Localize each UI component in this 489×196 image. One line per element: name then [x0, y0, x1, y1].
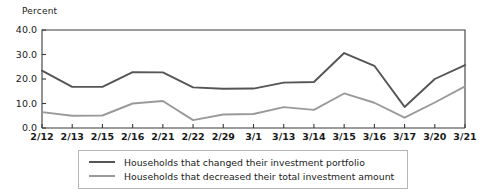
y-tick-label: 20.0: [16, 73, 37, 84]
plot-area: 0.010.020.030.040.02/122/132/152/162/212…: [0, 0, 489, 146]
x-tick-label: 3/13: [272, 131, 295, 142]
x-tick-label: 2/29: [212, 131, 235, 142]
x-tick-label: 2/22: [181, 131, 204, 142]
chart-legend: Households that changed their investment…: [78, 150, 408, 189]
series-line-changed-portfolio: [42, 53, 465, 107]
x-tick-label: 3/20: [423, 131, 447, 142]
y-tick-label: 10.0: [16, 98, 37, 109]
x-tick-label: 2/21: [151, 131, 174, 142]
legend-item-changed-portfolio: Households that changed their investment…: [85, 155, 401, 169]
x-tick-label: 3/1: [245, 131, 262, 142]
legend-swatch-changed-portfolio: [89, 161, 115, 163]
x-tick-label: 3/16: [363, 131, 387, 142]
x-tick-label: 2/16: [121, 131, 145, 142]
y-tick-label: 30.0: [16, 49, 37, 60]
legend-label-decreased-amount: Households that decreased their total in…: [124, 171, 394, 182]
x-tick-label: 3/14: [302, 131, 326, 142]
legend-swatch-decreased-amount: [89, 175, 115, 177]
x-tick-label: 3/15: [332, 131, 355, 142]
legend-item-decreased-amount: Households that decreased their total in…: [85, 169, 401, 183]
x-tick-label: 2/13: [61, 131, 84, 142]
x-tick-label: 3/21: [453, 131, 476, 142]
x-tick-label: 2/12: [30, 131, 53, 142]
legend-label-changed-portfolio: Households that changed their investment…: [124, 157, 365, 168]
percent-line-chart: Percent 0.010.020.030.040.02/122/132/152…: [0, 0, 489, 196]
y-tick-label: 40.0: [16, 24, 37, 35]
x-tick-label: 2/15: [91, 131, 114, 142]
x-tick-label: 3/17: [393, 131, 416, 142]
